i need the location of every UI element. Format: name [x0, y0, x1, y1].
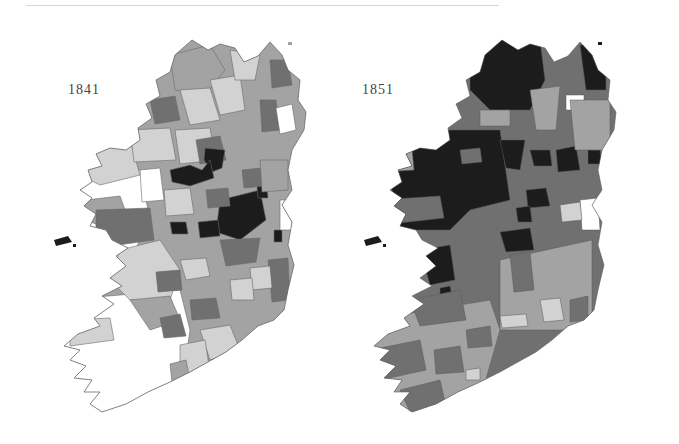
map-1851: [330, 0, 650, 444]
rathlin-island-1841: [288, 42, 292, 45]
rathlin-island-1851: [598, 42, 602, 45]
island-1841: [73, 244, 76, 247]
year-label-1851: 1851: [362, 82, 394, 98]
ireland-map-1851: [330, 0, 650, 444]
aran-islands-1851: [364, 236, 382, 246]
year-label-1841: 1841: [68, 82, 100, 98]
ireland-map-1841: [30, 0, 330, 444]
island-1851: [383, 244, 386, 247]
map-1841: [30, 0, 330, 444]
aran-islands-1841: [54, 236, 72, 246]
